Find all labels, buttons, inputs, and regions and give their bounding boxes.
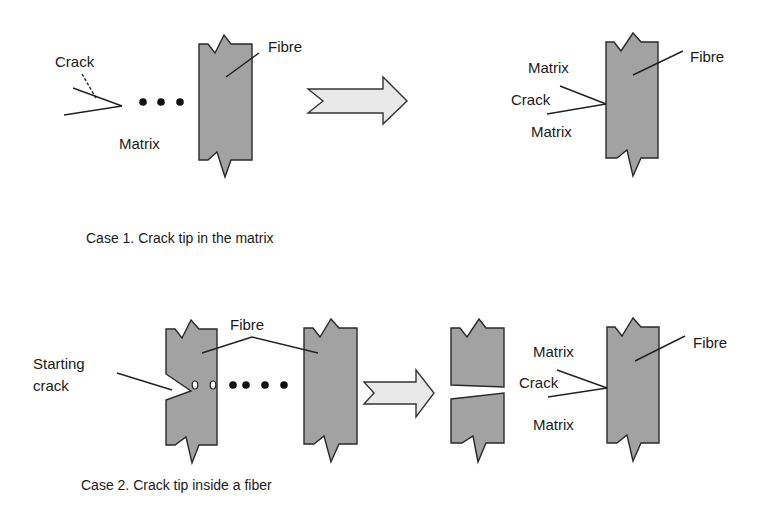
fibre-shape	[304, 319, 357, 462]
void	[210, 381, 216, 389]
void	[192, 381, 198, 389]
fibre-label: Fibre	[230, 316, 264, 333]
fibre-label: Fibre	[693, 334, 727, 351]
case2-before: Fibre Starting crack	[33, 316, 357, 463]
case2-broken-fibre	[451, 319, 504, 462]
matrix-bottom-label: Matrix	[531, 123, 572, 140]
propagation-dot	[229, 381, 237, 389]
transition-arrow-icon	[308, 77, 407, 124]
propagation-dot	[139, 98, 147, 106]
crack-line-lower	[547, 104, 606, 114]
matrix-bottom-label: Matrix	[533, 416, 574, 433]
crack-line-upper	[73, 88, 122, 106]
case2-caption: Case 2. Crack tip inside a fiber	[81, 477, 272, 493]
starting-crack-label-line2: crack	[33, 377, 69, 394]
transition-arrow-icon	[364, 370, 434, 417]
fibre-lower-piece	[451, 393, 504, 462]
diagram-canvas: Crack Matrix Fibre Fibre Matrix Crack Ma…	[0, 0, 774, 530]
fibre-label: Fibre	[690, 48, 724, 65]
fibre-shape	[606, 33, 658, 176]
matrix-top-label: Matrix	[528, 59, 569, 76]
propagation-dot	[157, 98, 165, 106]
fibre-upper-piece	[451, 319, 504, 387]
case2-after: Fibre Matrix Crack Matrix	[519, 318, 727, 461]
crack-label: Crack	[511, 91, 551, 108]
matrix-top-label: Matrix	[533, 343, 574, 360]
propagation-dot	[280, 381, 288, 389]
fibre-with-notch	[166, 320, 217, 463]
crack-line-lower	[64, 106, 122, 115]
case1-caption: Case 1. Crack tip in the matrix	[86, 230, 274, 246]
case1-before: Crack Matrix Fibre	[55, 35, 302, 177]
crack-line-upper	[560, 86, 606, 104]
propagation-dot	[261, 381, 269, 389]
starting-crack-label-line1: Starting	[33, 355, 85, 372]
fibre-shape	[607, 318, 659, 461]
fibre-label: Fibre	[268, 38, 302, 55]
case1-after: Fibre Matrix Crack Matrix	[511, 33, 724, 176]
crack-line-upper	[557, 370, 607, 388]
matrix-label: Matrix	[119, 135, 160, 152]
crack-label: Crack	[519, 374, 559, 391]
propagation-dot	[242, 381, 250, 389]
propagation-dot	[176, 98, 184, 106]
starting-crack-leader	[117, 373, 172, 390]
crack-label: Crack	[55, 53, 95, 70]
fibre-shape	[199, 35, 252, 177]
